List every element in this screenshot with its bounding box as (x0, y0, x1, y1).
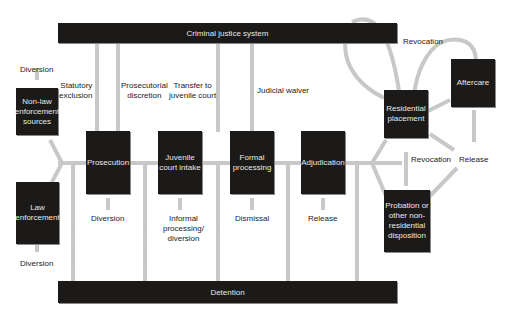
law-enforcement-box: Law enforcement (16, 182, 59, 244)
diversion-law-label: Diversion (20, 259, 53, 269)
box-line: Formal (233, 153, 272, 163)
box-line: Law (15, 203, 59, 213)
detention-bar: Detention (58, 281, 397, 303)
non-law-enforcement-box: Non-law enforcement sources (16, 88, 58, 135)
revocation-mid-label: Revocation (411, 155, 451, 165)
box-line: Adjudication (301, 158, 345, 168)
box-line: disposition (385, 231, 429, 241)
revocation-top-label: Revocation (403, 37, 443, 47)
criminal-justice-system-label: Criminal justice system (187, 29, 269, 38)
judicial-waiver-label: Judicial waiver (257, 86, 309, 96)
adjudication-box: Adjudication (301, 131, 345, 194)
box-line: Probation or (385, 201, 429, 211)
box-line: placement (386, 114, 426, 124)
aftercare-box: Aftercare (451, 59, 495, 107)
detention-label: Detention (210, 288, 244, 297)
box-line: other non- (385, 211, 429, 221)
prosecutorial-discretion-label: Prosecutorialdiscretion (121, 81, 168, 101)
informal-processing-label: Informalprocessing/diversion (163, 214, 204, 244)
box-line: enforcement (15, 213, 59, 223)
box-line: sources (15, 117, 59, 127)
statutory-exclusion-label: Statutoryexclusion (59, 81, 92, 101)
diversion-prosecution-label: Diversion (91, 214, 124, 224)
dismissal-label: Dismissal (235, 214, 269, 224)
box-line: residential (385, 221, 429, 231)
transfer-to-juvenile-court-label: Transfer tojuvenile court (169, 81, 216, 101)
juvenile-court-intake-box: Juvenile court intake (158, 131, 202, 194)
box-line: court intake (159, 163, 200, 173)
prosecution-box: Prosecution (86, 131, 130, 194)
release-right-label: Release (459, 155, 488, 165)
release-adjudication-label: Release (308, 214, 337, 224)
box-line: Juvenile (159, 153, 200, 163)
probation-box: Probation or other non- residential disp… (384, 190, 430, 252)
residential-placement-box: Residential placement (384, 90, 428, 138)
box-line: enforcement (15, 107, 59, 117)
formal-processing-box: Formal processing (230, 131, 274, 194)
box-line: Non-law (15, 97, 59, 107)
box-line: Prosecution (87, 158, 129, 168)
box-line: Aftercare (457, 78, 489, 88)
box-line: processing (233, 163, 272, 173)
box-line: Residential (386, 104, 426, 114)
criminal-justice-system-bar: Criminal justice system (58, 23, 397, 43)
diversion-top-label: Diversion (20, 65, 53, 75)
juvenile-justice-flow-diagram: Criminal justice system Detention Non-la… (0, 0, 509, 319)
